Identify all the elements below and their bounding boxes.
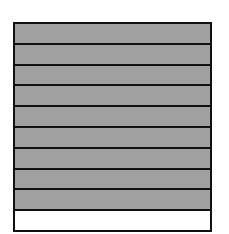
shaded-segment <box>15 66 210 87</box>
shaded-segment <box>15 170 210 191</box>
shaded-segment <box>15 190 210 211</box>
shaded-segment <box>15 128 210 149</box>
shaded-segment <box>15 107 210 128</box>
shaded-segment <box>15 45 210 66</box>
shaded-segment <box>15 149 210 170</box>
shaded-segment <box>15 86 210 107</box>
unshaded-segment <box>15 211 210 230</box>
shaded-segment <box>15 24 210 45</box>
fraction-bar <box>13 22 212 232</box>
